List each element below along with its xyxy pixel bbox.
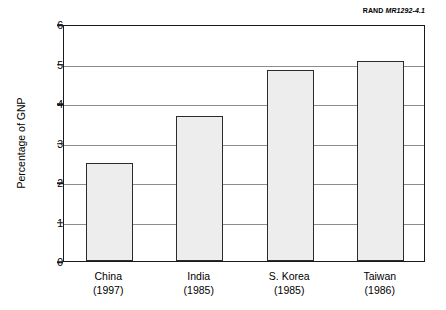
x-category-label: Taiwan(1986): [335, 269, 426, 297]
y-axis-title: Percentage of GNP: [14, 18, 28, 268]
document-id-label: MR1292-4.1: [385, 7, 425, 14]
x-category-label: China(1997): [63, 269, 154, 297]
bar-chart-figure: RAND MR1292-4.1 Percentage of GNP 012345…: [0, 0, 446, 310]
bar-taiwan: [357, 61, 404, 261]
bar-s-korea: [267, 70, 314, 261]
rand-logo-text: RAND: [363, 7, 384, 14]
y-tick-mark: [57, 64, 63, 66]
x-category-name: India: [154, 269, 245, 283]
bar-india: [176, 116, 223, 261]
y-tick-mark: [57, 103, 63, 105]
x-category-label: India(1985): [154, 269, 245, 297]
x-category-year: (1997): [63, 283, 154, 297]
x-category-label: S. Korea(1985): [244, 269, 335, 297]
y-tick-mark: [57, 182, 63, 184]
bar-china: [86, 163, 133, 261]
y-tick-mark: [57, 261, 63, 263]
source-credit: RAND MR1292-4.1: [363, 7, 425, 14]
plot-area: [63, 25, 425, 262]
y-tick-mark: [57, 24, 63, 26]
x-category-name: S. Korea: [244, 269, 335, 283]
x-category-name: China: [63, 269, 154, 283]
x-category-year: (1986): [335, 283, 426, 297]
x-category-year: (1985): [154, 283, 245, 297]
y-tick-mark: [57, 143, 63, 145]
y-tick-mark: [57, 222, 63, 224]
x-category-name: Taiwan: [335, 269, 426, 283]
x-category-year: (1985): [244, 283, 335, 297]
